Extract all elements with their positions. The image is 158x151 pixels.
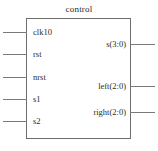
input-port-label-nrst: nrst: [33, 72, 46, 82]
output-port-label-left: left(2:0): [98, 81, 126, 91]
input-wire-s1: [3, 99, 27, 100]
output-wire-s: [130, 44, 155, 45]
input-port-label-s2: s2: [33, 116, 41, 126]
output-port-label-right: right(2:0): [93, 107, 126, 117]
input-port-label-clk10: clk10: [33, 27, 52, 37]
input-wire-clk10: [3, 32, 27, 33]
input-port-label-rst: rst: [33, 49, 42, 59]
input-wire-nrst: [3, 77, 27, 78]
input-wire-s2: [3, 121, 27, 122]
output-wire-right: [130, 112, 155, 113]
output-wire-left: [130, 86, 155, 87]
block-title: control: [0, 4, 158, 15]
input-wire-rst: [3, 54, 27, 55]
output-port-label-s: s(3:0): [106, 39, 126, 49]
input-port-label-s1: s1: [33, 94, 41, 104]
block-diagram-canvas: control clk10 rst nrst s1 s2 s(3:0) left…: [0, 0, 158, 151]
